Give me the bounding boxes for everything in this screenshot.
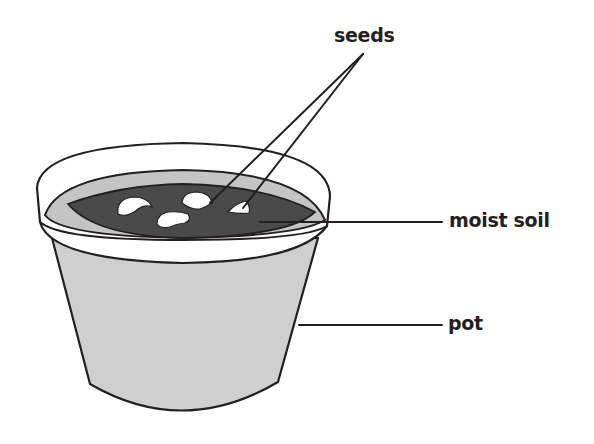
pot-label: pot	[448, 314, 483, 333]
seeds-label: seeds	[334, 26, 395, 45]
moist-soil-label: moist soil	[449, 211, 550, 230]
